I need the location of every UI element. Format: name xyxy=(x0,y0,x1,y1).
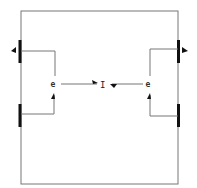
outer-frame xyxy=(21,11,178,184)
left-port-arrow-icon xyxy=(11,47,16,53)
right-center-arrow-icon xyxy=(110,84,117,88)
left-center-arrow-icon xyxy=(92,80,98,84)
right-lower-wire xyxy=(150,95,178,116)
right-lower-arrow-icon xyxy=(147,93,151,99)
left-lower-arrow-icon xyxy=(51,93,55,99)
left-lower-wire xyxy=(21,95,54,114)
left-lower-port xyxy=(19,104,22,127)
center-node-label: I xyxy=(100,80,105,90)
right-port-arrow-icon xyxy=(182,47,188,53)
right-junction-label: e xyxy=(146,80,151,89)
right-upper-port xyxy=(177,40,180,63)
right-upper-wire xyxy=(150,49,178,76)
left-junction-label: e xyxy=(51,80,56,89)
left-upper-wire xyxy=(21,51,55,76)
diagram-canvas: e e I xyxy=(0,0,197,188)
